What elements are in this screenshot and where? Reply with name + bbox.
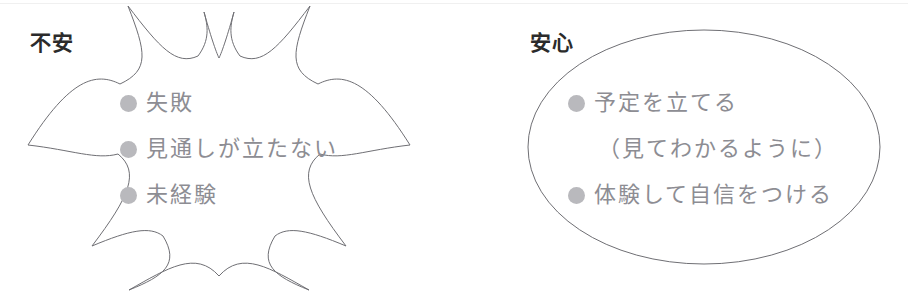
list-item: 体験して自信をつける: [568, 172, 838, 218]
group-label-relief: 安心: [530, 26, 574, 56]
list-item: 予定を立てる: [568, 80, 838, 126]
list-item-label: 失敗: [146, 92, 194, 114]
bullet-dot-icon: [120, 141, 137, 158]
figure-canvas: 不安 失敗 見通しが立たない 未経験 安心 予定を立てる （見てわかるように） …: [0, 0, 908, 294]
top-divider-rule: [0, 3, 908, 4]
bullet-placeholder: [568, 141, 585, 158]
list-item: 見通しが立たない: [120, 126, 338, 172]
bullet-dot-icon: [568, 187, 585, 204]
item-list-anxiety: 失敗 見通しが立たない 未経験: [120, 80, 338, 218]
bullet-dot-icon: [120, 187, 137, 204]
list-item-label: 見通しが立たない: [146, 138, 338, 160]
list-item-label: 未経験: [146, 184, 218, 206]
list-item-sub: （見てわかるように）: [568, 126, 838, 172]
list-item-label: （見てわかるように）: [594, 138, 838, 160]
bullet-dot-icon: [120, 95, 137, 112]
item-list-relief: 予定を立てる （見てわかるように） 体験して自信をつける: [568, 80, 838, 218]
list-item: 未経験: [120, 172, 338, 218]
bullet-dot-icon: [568, 95, 585, 112]
group-label-anxiety: 不安: [30, 26, 74, 56]
list-item-label: 体験して自信をつける: [594, 184, 833, 206]
list-item-label: 予定を立てる: [594, 92, 738, 114]
list-item: 失敗: [120, 80, 338, 126]
